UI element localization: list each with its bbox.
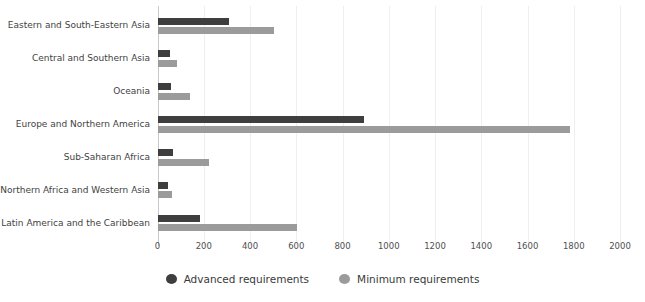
x-tick-label: 1000 — [378, 241, 400, 251]
legend-label: Advanced requirements — [184, 273, 309, 285]
bar-minimum-requirements — [158, 224, 297, 231]
category-label: Sub-Saharan Africa — [0, 152, 150, 163]
x-tick-label: 600 — [288, 241, 304, 251]
bar-advanced-requirements — [158, 83, 171, 90]
legend-marker-circle-icon — [166, 274, 177, 284]
bar-chart: Eastern and South-Eastern AsiaCentral an… — [0, 0, 645, 302]
category-label: Oceania — [0, 86, 150, 97]
x-tick-label: 1400 — [470, 241, 492, 251]
bar-minimum-requirements — [158, 126, 570, 133]
category-label: Eastern and South-Eastern Asia — [0, 20, 150, 31]
gridline — [574, 6, 575, 246]
category-label: Europe and Northern America — [0, 119, 150, 130]
x-tick-label: 2000 — [609, 241, 631, 251]
category-label: Northern Africa and Western Asia — [0, 185, 150, 196]
legend: Advanced requirementsMinimum requirement… — [0, 273, 645, 285]
bar-minimum-requirements — [158, 60, 177, 67]
legend-item: Minimum requirements — [339, 273, 479, 285]
x-tick-label: 1800 — [563, 241, 585, 251]
legend-marker-circle-icon — [339, 274, 350, 284]
plot-area: Eastern and South-Eastern AsiaCentral an… — [0, 0, 645, 302]
bar-advanced-requirements — [158, 182, 168, 189]
bar-minimum-requirements — [158, 159, 209, 166]
gridline — [620, 6, 621, 246]
bar-advanced-requirements — [158, 18, 229, 25]
bar-advanced-requirements — [158, 149, 173, 156]
x-tick-label: 200 — [196, 241, 212, 251]
bar-advanced-requirements — [158, 215, 200, 222]
bar-advanced-requirements — [158, 116, 364, 123]
bar-minimum-requirements — [158, 93, 190, 100]
x-tick-label: 1600 — [517, 241, 539, 251]
x-tick-label: 1200 — [424, 241, 446, 251]
legend-item: Advanced requirements — [166, 273, 309, 285]
x-tick-label: 0 — [155, 241, 160, 251]
legend-label: Minimum requirements — [357, 273, 479, 285]
x-tick-label: 800 — [334, 241, 350, 251]
category-label: Latin America and the Caribbean — [0, 218, 150, 229]
x-tick-label: 400 — [242, 241, 258, 251]
bar-minimum-requirements — [158, 191, 172, 198]
bar-minimum-requirements — [158, 27, 274, 34]
bar-advanced-requirements — [158, 50, 170, 57]
category-label: Central and Southern Asia — [0, 53, 150, 64]
